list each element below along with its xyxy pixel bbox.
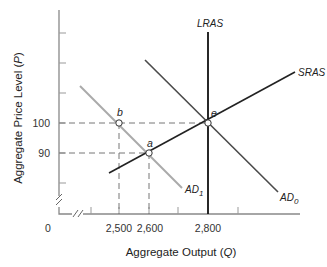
origin-label: 0 [45,222,51,234]
sras-curve [109,72,295,173]
lras-label: LRAS [197,18,223,29]
ad1-label: AD1 [184,184,203,198]
x-axis-title: Aggregate Output (Q) [126,246,237,258]
ad-as-chart: b a e LRAS SRAS AD0 AD1 100 90 0 2,500 2… [0,0,327,267]
sras-label: SRAS [298,67,326,78]
y-axis-title: Aggregate Price Level (P) [12,52,24,184]
point-e-label: e [211,107,217,119]
reference-lines [59,123,208,214]
ad1-curve [80,86,182,188]
y-tick-90: 90 [38,147,50,159]
x-tick-2600: 2,600 [137,222,163,234]
y-tick-100: 100 [32,117,50,129]
point-b-label: b [117,106,123,118]
x-axis [73,207,300,217]
y-axis [56,10,72,214]
x-tick-2500: 2,500 [106,222,132,234]
ad0-label: AD0 [279,192,299,206]
point-a-label: a [147,137,153,149]
x-tick-2800: 2,800 [195,222,221,234]
point-a-marker [146,150,152,156]
point-e-marker [205,120,211,126]
point-b-marker [116,120,122,126]
